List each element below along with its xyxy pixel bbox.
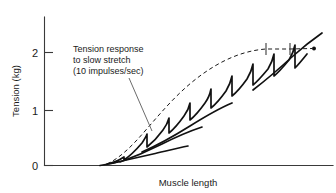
- y-axis-ticks: 0 1 2: [32, 47, 53, 172]
- x-axis-title: Muscle length: [159, 177, 218, 188]
- y-tick-label-0: 0: [32, 160, 38, 172]
- y-axis-title: Tension (kg): [10, 65, 21, 117]
- y-tick-label-2: 2: [32, 47, 38, 59]
- total-tension-upper-curve: [253, 33, 322, 90]
- annotation-leader-line: [129, 78, 152, 131]
- figure-container: 0 1 2 Tension (kg) Muscle length Tension…: [0, 0, 336, 193]
- annotation-group: Tension response to slow stretch (10 imp…: [73, 44, 152, 131]
- annotation-line-2: to slow stretch: [73, 55, 131, 65]
- axes-group: [45, 17, 334, 166]
- annotation-line-1: Tension response: [73, 44, 144, 54]
- annotation-line-3: (10 impulses/sec): [73, 66, 144, 76]
- y-tick-label-1: 1: [32, 105, 38, 117]
- envelope-end-marker: [312, 47, 316, 51]
- active-tension-sawtooth-curve: [107, 45, 307, 164]
- tension-vs-muscle-length-chart: 0 1 2 Tension (kg) Muscle length Tension…: [0, 0, 336, 193]
